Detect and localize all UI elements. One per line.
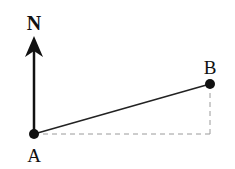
bearing-diagram: N A B — [0, 0, 235, 169]
point-a-label: A — [27, 145, 41, 166]
segment-ab — [34, 84, 210, 134]
point-b-label: B — [204, 57, 217, 78]
point-a-dot — [29, 129, 39, 139]
north-label: N — [27, 12, 42, 34]
point-b-dot — [205, 79, 215, 89]
